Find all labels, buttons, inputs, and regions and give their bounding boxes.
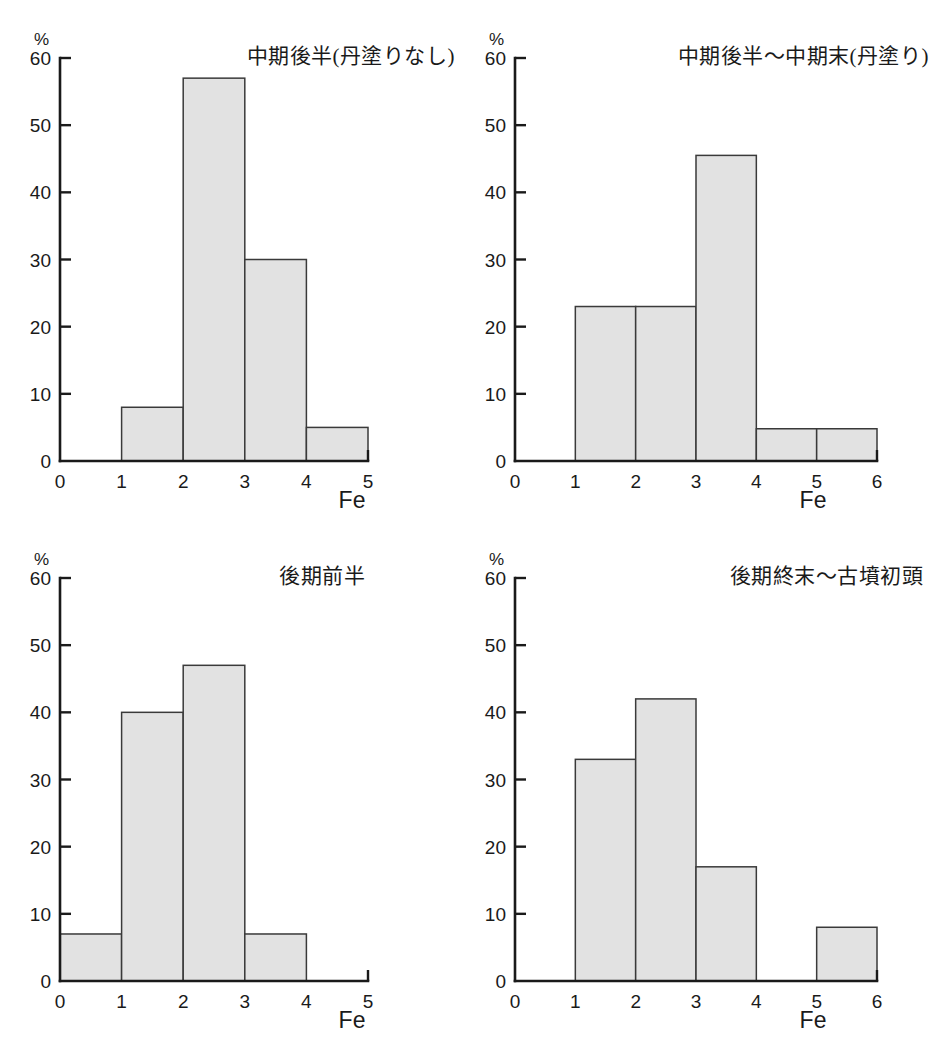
y-axis-tick-label: 50	[485, 115, 506, 136]
y-axis-tick-label: 60	[485, 48, 506, 69]
plot-area-3: 01020304050600123456	[485, 568, 882, 1012]
y-axis-tick-label: 0	[40, 971, 51, 992]
y-axis-tick-label: 0	[495, 971, 506, 992]
y-unit-label: %	[489, 550, 504, 569]
histogram-bar	[60, 934, 122, 981]
y-axis-tick-label: 10	[30, 384, 51, 405]
y-axis-tick-label: 60	[485, 568, 506, 589]
x-axis-tick-label: 2	[178, 991, 189, 1012]
chart-panel-top-left: % 中期後半(丹塗りなし) 0102030405060012345 Fe	[0, 0, 466, 520]
x-axis-tick-label: 6	[872, 471, 883, 492]
x-axis-tick-label: 3	[240, 991, 251, 1012]
histogram-bar	[575, 759, 635, 981]
histogram-figure: % 中期後半(丹塗りなし) 0102030405060012345 Fe % 中…	[0, 0, 933, 1056]
x-axis-tick-label: 2	[630, 471, 641, 492]
panel-title: 後期終末〜古墳初頭	[730, 564, 924, 588]
y-axis-tick-label: 10	[30, 904, 51, 925]
x-axis-tick-label: 4	[301, 991, 312, 1012]
panel-title: 後期前半	[279, 564, 365, 588]
x-axis-tick-label: 1	[570, 991, 581, 1012]
histogram-bar	[756, 429, 816, 461]
y-axis-tick-label: 20	[485, 837, 506, 858]
x-axis-title: Fe	[800, 1007, 827, 1033]
y-axis-tick-label: 50	[30, 635, 51, 656]
y-axis-tick-label: 40	[485, 182, 506, 203]
x-axis-title: Fe	[339, 1007, 366, 1033]
chart-panel-bottom-left: % 後期前半 0102030405060012345 Fe	[0, 520, 466, 1040]
chart-svg-0: % 中期後半(丹塗りなし) 0102030405060012345 Fe	[0, 0, 466, 520]
y-axis-tick-label: 0	[40, 451, 51, 472]
x-axis-tick-label: 3	[691, 991, 702, 1012]
panel-title: 中期後半(丹塗りなし)	[247, 44, 456, 68]
y-unit-label: %	[34, 550, 49, 569]
histogram-bar	[696, 867, 756, 981]
histogram-bar	[183, 78, 245, 461]
plot-area-0: 0102030405060012345	[30, 48, 373, 492]
chart-panel-top-right: % 中期後半〜中期末(丹塗り) 01020304050600123456 Fe	[467, 0, 933, 520]
y-axis-tick-label: 0	[495, 451, 506, 472]
x-axis-tick-label: 4	[751, 991, 762, 1012]
y-axis-tick-label: 40	[485, 702, 506, 723]
histogram-bar	[183, 665, 245, 981]
y-axis-tick-label: 40	[30, 702, 51, 723]
y-axis-tick-label: 30	[485, 770, 506, 791]
chart-svg-2: % 後期前半 0102030405060012345 Fe	[0, 520, 466, 1040]
y-axis-tick-label: 20	[485, 317, 506, 338]
histogram-bar	[636, 307, 696, 461]
y-unit-label: %	[34, 30, 49, 49]
x-axis-title: Fe	[339, 487, 366, 513]
y-axis-tick-label: 10	[485, 384, 506, 405]
x-axis-tick-label: 2	[178, 471, 189, 492]
y-axis-tick-label: 30	[30, 250, 51, 271]
figure-caption	[0, 1040, 933, 1056]
y-axis-tick-label: 60	[30, 568, 51, 589]
x-axis-tick-label: 1	[116, 471, 127, 492]
y-axis-tick-label: 30	[30, 770, 51, 791]
y-axis-tick-label: 60	[30, 48, 51, 69]
chart-svg-1: % 中期後半〜中期末(丹塗り) 01020304050600123456 Fe	[467, 0, 933, 520]
histogram-bar	[817, 927, 877, 981]
y-axis-tick-label: 10	[485, 904, 506, 925]
y-axis-tick-label: 20	[30, 837, 51, 858]
x-axis-tick-label: 0	[510, 991, 521, 1012]
histogram-bar	[696, 155, 756, 461]
x-axis-tick-label: 0	[510, 471, 521, 492]
y-axis-tick-label: 50	[30, 115, 51, 136]
x-axis-tick-label: 4	[751, 471, 762, 492]
y-axis-tick-label: 30	[485, 250, 506, 271]
x-axis-tick-label: 0	[55, 471, 66, 492]
histogram-bar	[636, 699, 696, 981]
x-axis-tick-label: 1	[570, 471, 581, 492]
x-axis-tick-label: 4	[301, 471, 312, 492]
histogram-bar	[306, 427, 368, 461]
x-axis-tick-label: 3	[240, 471, 251, 492]
x-axis-tick-label: 6	[872, 991, 883, 1012]
panel-title: 中期後半〜中期末(丹塗り)	[678, 44, 930, 68]
x-axis-tick-label: 2	[630, 991, 641, 1012]
x-axis-tick-label: 0	[55, 991, 66, 1012]
y-unit-label: %	[489, 30, 504, 49]
histogram-bar	[245, 934, 307, 981]
x-axis-title: Fe	[800, 487, 827, 513]
histogram-bar	[122, 712, 184, 981]
x-axis-tick-label: 3	[691, 471, 702, 492]
histogram-bar	[575, 307, 635, 461]
y-axis-tick-label: 20	[30, 317, 51, 338]
chart-panel-bottom-right: % 後期終末〜古墳初頭 01020304050600123456 Fe	[467, 520, 933, 1040]
chart-svg-3: % 後期終末〜古墳初頭 01020304050600123456 Fe	[467, 520, 933, 1040]
plot-area-1: 01020304050600123456	[485, 48, 882, 492]
histogram-bar	[817, 429, 877, 461]
y-axis-tick-label: 40	[30, 182, 51, 203]
y-axis-tick-label: 50	[485, 635, 506, 656]
histogram-bar	[122, 407, 184, 461]
histogram-bar	[245, 260, 307, 462]
plot-area-2: 0102030405060012345	[30, 568, 373, 1012]
x-axis-tick-label: 1	[116, 991, 127, 1012]
